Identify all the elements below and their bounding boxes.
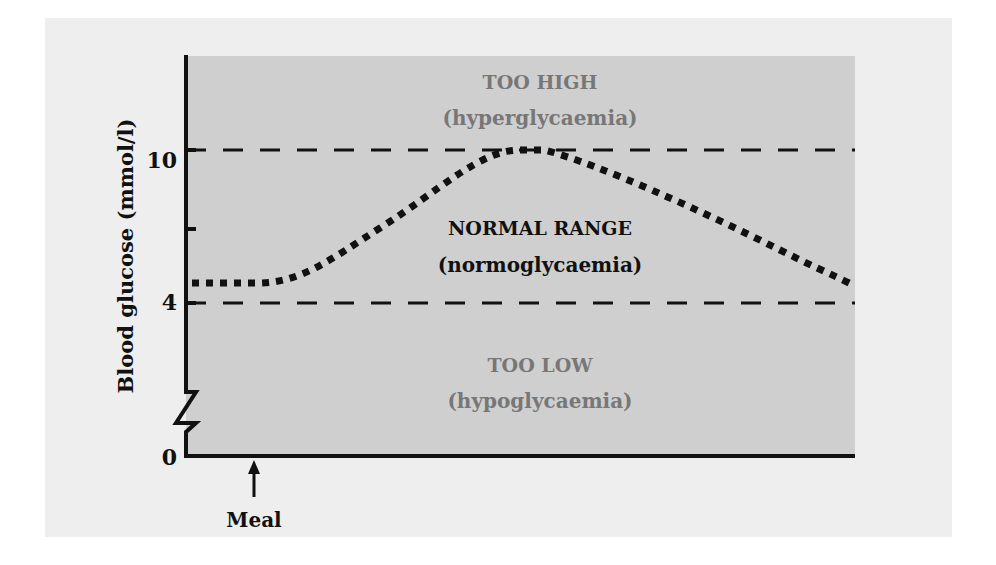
region-too-low-title: TOO LOW [487, 354, 593, 376]
y-tick-label-4: 4 [162, 289, 177, 315]
region-too-high-title: TOO HIGH [483, 71, 598, 93]
region-too-low-subtitle: (hypoglycaemia) [447, 389, 632, 413]
region-too-high-subtitle: (hyperglycaemia) [442, 106, 637, 130]
y-axis-label: Blood glucose (mmol/l) [113, 119, 138, 394]
meal-label: Meal [226, 508, 282, 532]
region-normal-title: NORMAL RANGE [448, 217, 632, 239]
y-tick-label-0: 0 [162, 444, 177, 470]
region-normal-subtitle: (normoglycaemia) [438, 253, 643, 277]
y-tick-label-10: 10 [146, 147, 177, 173]
glucose-chart: 10 4 0 Blood glucose (mmol/l) TOO HIGH (… [0, 0, 996, 565]
meal-arrow-icon [248, 460, 260, 497]
